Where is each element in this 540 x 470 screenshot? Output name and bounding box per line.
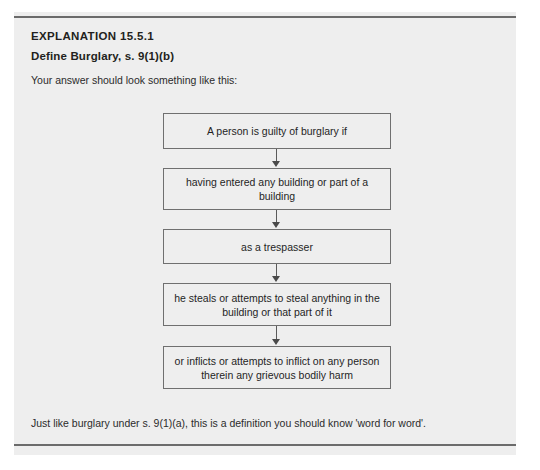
footer-note: Just like burglary under s. 9(1)(a), thi… <box>31 417 426 429</box>
flow-box: having entered any building or part of a… <box>163 168 391 210</box>
flow-connector-arrow-icon <box>272 276 280 282</box>
burglary-definition-flowchart: A person is guilty of burglary if having… <box>14 12 516 455</box>
flow-connector-arrow-icon <box>272 161 280 167</box>
flow-box: A person is guilty of burglary if <box>163 113 391 149</box>
panel-content: EXPLANATION 15.5.1 Define Burglary, s. 9… <box>14 12 516 455</box>
flow-box: he steals or attempts to steal anything … <box>163 283 391 326</box>
flow-box: as a trespasser <box>163 229 391 264</box>
explanation-panel: EXPLANATION 15.5.1 Define Burglary, s. 9… <box>14 12 516 455</box>
flow-connector-line <box>276 326 277 340</box>
flow-connector-arrow-icon <box>272 339 280 345</box>
flow-connector-arrow-icon <box>272 222 280 228</box>
flow-box: or inflicts or attempts to inflict on an… <box>163 346 391 389</box>
